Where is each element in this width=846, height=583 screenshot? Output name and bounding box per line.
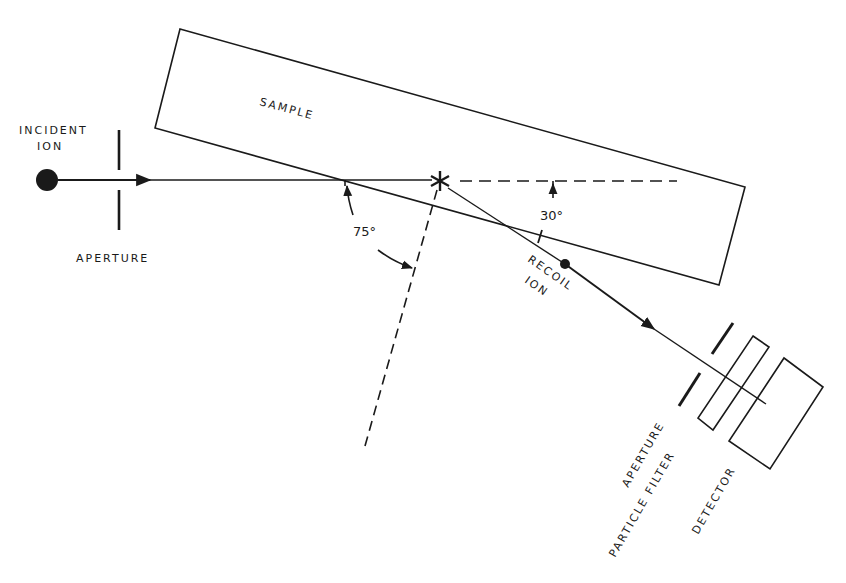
angle-30-label: 30° [540, 208, 563, 223]
detector-block [729, 358, 823, 469]
angle-75-arrow-upper [347, 186, 353, 215]
recoil-path [448, 188, 565, 264]
detector-label: DETECTOR [689, 464, 738, 536]
aperture-right-lower [679, 373, 700, 406]
recoil-ion-icon [560, 259, 570, 269]
scattering-point-icon [431, 171, 449, 191]
incident-ion-label-line2: ION [37, 140, 63, 153]
sample-block [155, 29, 745, 285]
incident-ion-icon [36, 169, 58, 191]
angle-75-arrow-lower [378, 250, 412, 268]
erda-geometry-diagram: INCIDENT ION APERTURE SAMPLE 75° 30° REC… [0, 0, 846, 583]
sample-label: SAMPLE [258, 95, 315, 122]
angle-30-arrow-lower [538, 230, 542, 243]
aperture-left-label: APERTURE [76, 252, 149, 265]
incident-ion-label-line1: INCIDENT [19, 124, 88, 137]
aperture-right-upper [712, 323, 733, 354]
angle-75-label: 75° [353, 224, 376, 239]
recoil-path-outer [565, 264, 654, 329]
